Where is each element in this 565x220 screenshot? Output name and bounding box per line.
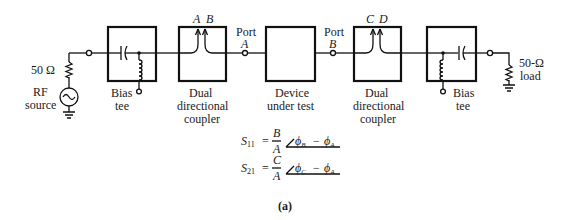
svg-text:ϕB: ϕB xyxy=(295,134,306,149)
svg-text:S21: S21 xyxy=(241,161,255,176)
coupler-port-c-label: C xyxy=(366,12,375,26)
svg-text:C: C xyxy=(273,153,282,167)
dut-label-line1: Device xyxy=(275,86,309,100)
inductor-icon xyxy=(139,60,142,80)
svg-text:=: = xyxy=(262,161,269,175)
coupler-right-label-line1: Dual xyxy=(365,86,389,100)
svg-text:ϕC: ϕC xyxy=(295,161,306,176)
port-a: Port A xyxy=(236,25,257,56)
source-resistor-label: 50 Ω xyxy=(31,63,55,77)
svg-text:ϕA: ϕA xyxy=(324,161,335,176)
bias-tee-right-label-line1: Bias xyxy=(453,86,475,100)
node-terminal-icon xyxy=(487,50,492,55)
port-b: Port B xyxy=(324,25,345,56)
coupler-left-label-line3: coupler xyxy=(184,112,220,126)
network-analyzer-diagram: 50 Ω RF source Bias tee A B Dual directi… xyxy=(0,0,565,220)
dual-directional-coupler-left: A B Dual directional coupler xyxy=(177,12,229,126)
rf-source: 50 Ω RF source xyxy=(25,53,86,118)
svg-text:B: B xyxy=(273,126,281,140)
source-label-line1: RF xyxy=(33,85,48,99)
dc-bias-terminal-icon xyxy=(441,89,446,94)
dual-directional-coupler-right: C D Dual directional coupler xyxy=(353,12,405,126)
figure-caption: (a) xyxy=(278,199,292,213)
svg-text:=: = xyxy=(262,134,269,148)
coupler-port-a-label: A xyxy=(192,12,201,26)
coupler-left-label-line1: Dual xyxy=(189,86,213,100)
coupler-right-label-line2: directional xyxy=(353,99,405,113)
port-b-label-line2: B xyxy=(329,37,337,51)
port-a-label-line2: A xyxy=(240,37,249,51)
node-terminal-icon xyxy=(86,50,91,55)
inductor-icon xyxy=(440,60,443,80)
source-resistor-icon xyxy=(66,62,72,78)
coupler-port-d-label: D xyxy=(378,12,388,26)
svg-text:−: − xyxy=(313,161,320,175)
coupler-right-label-line3: coupler xyxy=(360,112,396,126)
ground-icon xyxy=(503,85,515,91)
coupler-left-label-line2: directional xyxy=(177,99,229,113)
equation-s21: S21 = C A ϕC − ϕA xyxy=(241,153,340,183)
dc-bias-terminal-icon xyxy=(137,89,142,94)
bias-tee-right-label-line2: tee xyxy=(456,99,470,113)
load-label-line2: load xyxy=(520,69,541,83)
equation-s11: S11 = B A ϕB − ϕA xyxy=(241,126,340,156)
dut-label-line2: under test xyxy=(267,99,315,113)
device-under-test: Device under test xyxy=(266,27,315,113)
ground-icon xyxy=(63,112,75,118)
svg-text:ϕA: ϕA xyxy=(324,134,335,149)
svg-text:A: A xyxy=(272,169,281,183)
bias-tee-left-label-line2: tee xyxy=(115,99,129,113)
load-label-line1: 50-Ω xyxy=(519,56,544,70)
svg-text:−: − xyxy=(313,134,320,148)
bias-tee-right: Bias tee xyxy=(427,27,476,113)
source-label-line2: source xyxy=(25,98,56,112)
bias-tee-left-label-line1: Bias xyxy=(111,86,133,100)
load-resistor-icon xyxy=(506,65,512,81)
coupler-port-b-label: B xyxy=(206,12,214,26)
load: 50-Ω load xyxy=(493,53,544,91)
svg-text:S11: S11 xyxy=(241,134,255,149)
bias-tee-left: Bias tee xyxy=(108,27,156,113)
